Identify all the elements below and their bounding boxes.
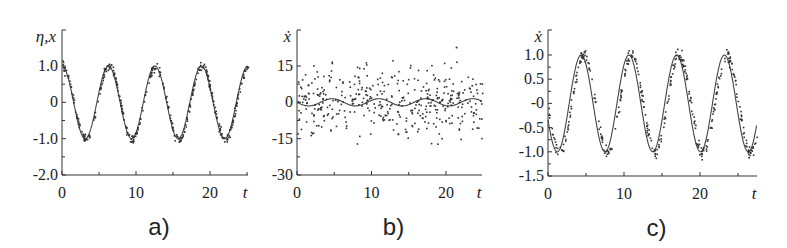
y-tick-label: 0 xyxy=(285,93,293,110)
y-tick-label: 1.0 xyxy=(38,57,58,74)
y-tick-label: -0 xyxy=(531,94,544,111)
y-tick-label: 1.0 xyxy=(524,46,544,63)
y-axis-label: ẋ xyxy=(282,27,291,46)
panel-b: 150-15-3001020ẋtb) xyxy=(272,27,484,240)
x-tick-label: 10 xyxy=(128,184,144,201)
y-tick-label: -0.5 xyxy=(519,119,544,136)
panel-label: b) xyxy=(383,213,404,240)
y-tick-label: -30 xyxy=(272,166,293,183)
panel-c: 1.00.5-0-0.5-1.0-1.501020ẋtc) xyxy=(519,27,758,241)
solid-line-series xyxy=(548,55,757,152)
y-tick-label: -1.0 xyxy=(519,143,544,160)
x-tick-label: 20 xyxy=(202,184,218,201)
x-axis-label: t xyxy=(243,183,249,202)
figure-three-panels: 1.00-1.0-2.001020η,xta) 150-15-3001020ẋt… xyxy=(0,0,787,248)
x-tick-label: 0 xyxy=(293,184,301,201)
solid-line-series xyxy=(297,99,482,106)
x-tick-label: 20 xyxy=(438,184,454,201)
scatter-points xyxy=(297,47,483,145)
y-tick-label: 0.5 xyxy=(524,70,544,87)
y-tick-label: -2.0 xyxy=(33,166,58,183)
x-axis-label: t xyxy=(752,184,758,203)
panel-label: a) xyxy=(148,213,169,240)
y-axis-label: η,x xyxy=(36,27,57,46)
x-tick-label: 10 xyxy=(616,185,632,202)
y-tick-label: -1.0 xyxy=(33,130,58,147)
x-tick-label: 10 xyxy=(364,184,380,201)
x-axis-label: t xyxy=(477,183,483,202)
solid-line-series xyxy=(62,66,248,139)
y-tick-label: 0 xyxy=(50,93,58,110)
x-tick-label: 0 xyxy=(544,185,552,202)
scatter-points xyxy=(548,49,757,161)
x-tick-label: 0 xyxy=(58,184,66,201)
panel-label: c) xyxy=(647,214,667,241)
x-tick-label: 20 xyxy=(692,185,708,202)
panel-a: 1.00-1.0-2.001020η,xta) xyxy=(33,27,250,240)
y-axis-label: ẋ xyxy=(533,27,542,46)
y-tick-label: -1.5 xyxy=(519,167,544,184)
y-tick-label: -15 xyxy=(272,130,293,147)
y-tick-label: 15 xyxy=(277,57,293,74)
